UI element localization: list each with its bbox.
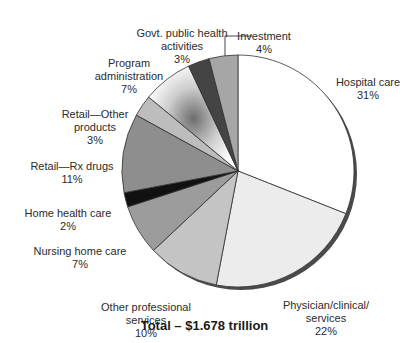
label-nursing-home: Nursing home care7%: [28, 232, 132, 271]
chart-title: Total – $1.678 trillion: [0, 318, 409, 333]
label-retail-other: Retail—Other products3%: [54, 95, 136, 147]
label-rx-drugs: Retail—Rx drugs11%: [22, 147, 122, 186]
label-hospital-care: Hospital care31%: [328, 63, 408, 102]
label-home-health: Home health care2%: [18, 194, 118, 233]
label-investment: Investment4%: [232, 17, 296, 56]
label-govt-public-health: Govt. public health activities3%: [132, 14, 232, 66]
